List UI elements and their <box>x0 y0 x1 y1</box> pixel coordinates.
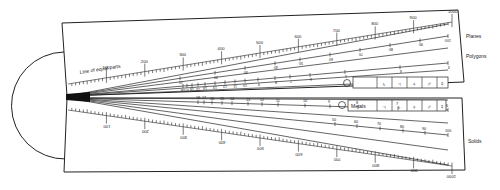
metals-tick-label: 9 <box>328 100 330 104</box>
lower-equal-parts-tick-label: 1000 <box>446 174 456 179</box>
planet-symbol: ♀ <box>412 104 417 110</box>
planet-symbol: ♀ <box>412 81 417 87</box>
lower-equal-parts-tick-label: 800 <box>372 163 380 168</box>
lower-equal-parts-tick-label: 600 <box>295 152 303 157</box>
planet-symbol: ♂ <box>427 81 432 87</box>
upper-equal-parts-tick-label: 200 <box>141 59 149 64</box>
planet-symbol: ♂ <box>427 104 432 110</box>
metals-tick-label: 10 <box>303 99 307 103</box>
planes-tick-label: 20 <box>214 75 218 79</box>
polygons-tick-label: 15 <box>196 87 200 91</box>
planes-tick-label: 40 <box>274 65 278 69</box>
planet-symbol: ♃ <box>382 104 387 110</box>
polygons-tick-label: 8 <box>275 80 277 84</box>
lower-equal-parts-tick-label: 700 <box>333 157 341 162</box>
planes-tick-label: 10 <box>179 80 183 84</box>
solids-tick-label: 80 <box>400 125 404 129</box>
upper-equal-parts-tick-label: 700 <box>333 28 341 33</box>
polygons-tick-label: 12 <box>223 84 227 88</box>
planet-symbol: ♄ <box>397 104 402 110</box>
upper-equal-parts-tick-label: 1000 <box>448 9 458 14</box>
solids-tick-label: 60 <box>354 120 358 124</box>
metals-label: Metals <box>351 103 366 109</box>
planes-tick-label: 90 <box>419 42 423 46</box>
hinge-arc <box>11 52 66 159</box>
upper-equal-parts-tick-label: 900 <box>410 15 418 20</box>
upper-symbol-box <box>344 77 449 88</box>
solids-label: Solids <box>468 138 482 144</box>
polygons-tick-label: 6 <box>310 77 312 81</box>
metals-tick-label: 12 <box>260 98 264 102</box>
polygons-tick-label: 3 <box>448 65 450 69</box>
upper-equal-parts-tick-label: 100 <box>102 65 110 70</box>
planes-tick-label: 100 <box>445 38 451 42</box>
polygons-tick-label: 16 <box>190 87 194 91</box>
metals-tick-label: 13 <box>246 98 250 102</box>
lower-equal-parts-tick-label: 100 <box>103 124 111 129</box>
polygons-tick-label: 4 <box>400 69 402 73</box>
metals-tick-label: 6 <box>446 104 448 108</box>
lower-equal-parts-tick-label: 400 <box>218 140 226 145</box>
upper-equal-parts-tick-label: 800 <box>371 21 379 26</box>
planet-symbol: ☿ <box>440 81 445 87</box>
upper-equal-parts-tick-label: 400 <box>218 46 226 51</box>
polygons-tick-label: 9 <box>258 82 260 86</box>
sector-diagram: Line of equal parts Planes Polygons Soli… <box>0 0 500 190</box>
polygons-tick-label: 11 <box>233 83 237 87</box>
metals-tick-label: 17 <box>202 96 206 100</box>
planes-tick-label: 60 <box>329 57 333 61</box>
polygons-tick-label: 14 <box>203 86 207 90</box>
metals-tick-label: 8 <box>356 101 358 105</box>
planes-tick-label: 70 <box>359 52 363 56</box>
lower-equal-parts-tick-label: 200 <box>141 129 149 134</box>
polygons-tick-label: 13 <box>213 85 217 89</box>
upper-equal-parts-tick-label: 500 <box>256 40 264 45</box>
planes-tick-label: 50 <box>299 61 303 65</box>
planes-label: Planes <box>466 33 482 39</box>
polygons-tick-label: 5 <box>345 74 347 78</box>
solids-tick-label: 90 <box>422 127 426 131</box>
upper-equal-parts-tick-label: 300 <box>179 52 187 57</box>
lower-equal-parts-tick-label: 500 <box>256 146 264 151</box>
polygons-tick-label: 18 <box>181 88 185 92</box>
upper-equal-parts-tick-label: 600 <box>294 34 302 39</box>
metals-tick-label: 18 <box>196 96 200 100</box>
metals-tick-label: 14 <box>230 97 234 101</box>
lower-equal-parts-tick-label: 300 <box>180 135 188 140</box>
metals-tick-label: 15 <box>220 97 224 101</box>
polygons-tick-label: 7 <box>290 79 292 83</box>
lower-equal-parts-tick-label: 900 <box>410 168 418 173</box>
sector-drawing: Line of equal parts Planes Polygons Soli… <box>0 0 500 190</box>
planet-symbol: ☿ <box>440 104 445 110</box>
solids-tick-label: 100 <box>445 129 451 133</box>
solids-tick-label: 70 <box>377 122 381 126</box>
metals-tick-label: 11 <box>276 99 280 103</box>
polygons-label: Polygons <box>466 53 487 59</box>
planet-symbol: ♄ <box>382 81 387 87</box>
metals-tick-label: 16 <box>210 97 214 101</box>
planes-tick-label: 30 <box>244 70 248 74</box>
planet-symbol: ♃ <box>397 81 402 87</box>
polygons-tick-label: 10 <box>243 83 247 87</box>
planes-tick-label: 80 <box>389 47 393 51</box>
solids-tick-label: 50 <box>332 118 336 122</box>
